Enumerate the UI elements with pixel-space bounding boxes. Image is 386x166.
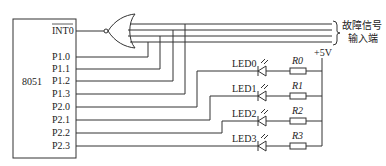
chip-label: 8051 (22, 76, 42, 87)
fault-label-line1: 故障信号 (342, 19, 382, 31)
fault-brace (333, 21, 340, 45)
p2-2-wire (76, 121, 250, 133)
resistor-r3 (290, 143, 306, 149)
led2-label: LED2 (232, 108, 256, 119)
pin-p1-2-label: P1.2 (52, 75, 70, 86)
r1-label: R1 (291, 80, 303, 91)
pin-int0-label: INT0 (52, 25, 74, 36)
p2-1-wire (76, 96, 250, 120)
supply-label: +5V (314, 47, 333, 58)
p1-1-wire (76, 36, 160, 69)
nor-gate (108, 14, 135, 48)
pin-p2-3-label: P2.3 (52, 140, 70, 151)
led1-label: LED1 (232, 83, 256, 94)
resistor-r2 (290, 118, 306, 124)
r0-label: R0 (291, 55, 303, 66)
led0-label: LED0 (232, 58, 256, 69)
p1-3-wire (76, 24, 185, 94)
circuit-diagram: 8051 INT0 P1.0 P1.1 P1.2 P1.3 P2.0 P2.1 … (0, 0, 386, 166)
r2-label: R2 (291, 105, 303, 116)
pin-p2-1-label: P2.1 (52, 114, 70, 125)
fault-label-line2: 输入端 (348, 32, 378, 44)
pin-p2-0-label: P2.0 (52, 101, 70, 112)
pin-p1-3-label: P1.3 (52, 88, 70, 99)
p2-0-wire (76, 71, 250, 107)
r3-label: R3 (291, 130, 303, 141)
nor-inversion-bubble (104, 29, 108, 33)
pin-p1-0-label: P1.0 (52, 51, 70, 62)
led3-label: LED3 (232, 133, 256, 144)
pin-p2-2-label: P2.2 (52, 127, 70, 138)
pin-p1-1-label: P1.1 (52, 63, 70, 74)
resistor-r1 (290, 93, 306, 99)
p1-0-wire (76, 42, 148, 57)
resistor-r0 (290, 68, 306, 74)
p1-2-wire (76, 30, 173, 81)
